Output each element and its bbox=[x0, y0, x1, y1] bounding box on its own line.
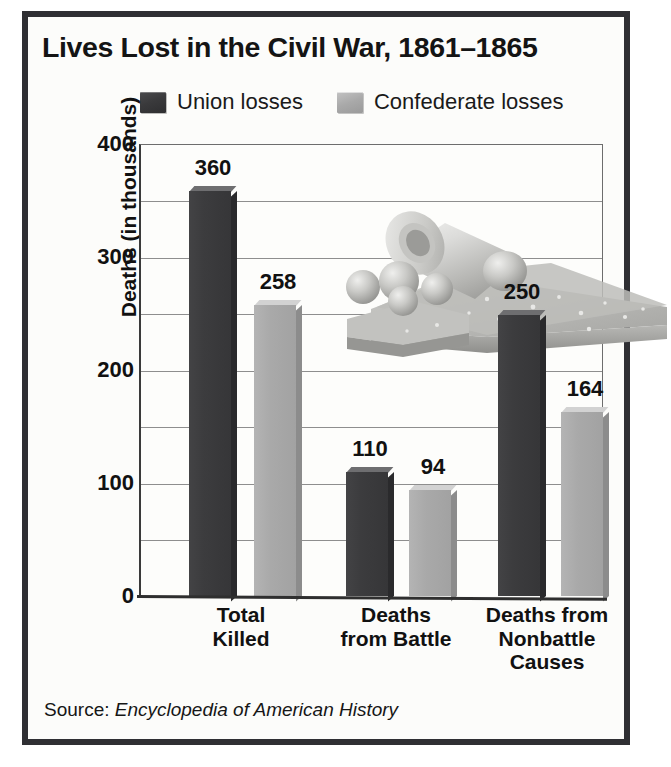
bar-side-face bbox=[296, 305, 302, 601]
y-tick-300: 300 bbox=[97, 244, 134, 270]
cannon-bore bbox=[401, 225, 434, 260]
y-tick-0: 0 bbox=[122, 583, 134, 609]
chart-canvas: Lives Lost in the Civil War, 1861–1865 U… bbox=[28, 17, 624, 739]
category-line: Killed bbox=[161, 627, 321, 651]
bar-side-face bbox=[231, 191, 237, 601]
cannonball-4 bbox=[421, 273, 453, 305]
category-line: Deaths bbox=[311, 603, 481, 627]
legend-item-confederate: Confederate losses bbox=[337, 89, 564, 115]
x-axis-category-labels: Total Killed Deaths from Battle Deaths f… bbox=[139, 603, 609, 713]
cannonball-2 bbox=[379, 261, 419, 301]
cannon-carriage-step-side bbox=[347, 333, 469, 357]
bar-confederate-deaths-from-battle: 94 bbox=[409, 485, 457, 596]
source-note: Source: Encyclopedia of American History bbox=[44, 699, 398, 721]
bar-front-face bbox=[189, 191, 231, 596]
cannonball-3 bbox=[388, 286, 418, 316]
bar-value-label: 164 bbox=[547, 376, 623, 402]
cannon-carriage-step bbox=[347, 301, 469, 345]
y-tick-400: 400 bbox=[97, 131, 134, 157]
category-label-deaths-from-battle: Deaths from Battle bbox=[311, 603, 481, 650]
bar-value-label: 250 bbox=[484, 279, 560, 305]
bar-union-total-killed: 360 bbox=[189, 186, 237, 596]
source-title: Encyclopedia of American History bbox=[115, 699, 398, 720]
bar-side-face bbox=[603, 412, 609, 601]
bar-value-label: 94 bbox=[395, 454, 471, 480]
y-tick-200: 200 bbox=[97, 357, 134, 383]
legend-label-union: Union losses bbox=[177, 89, 303, 115]
bar-confederate-total-killed: 258 bbox=[254, 300, 302, 596]
bar-confederate-deaths-nonbattle: 164 bbox=[561, 407, 609, 596]
category-label-total-killed: Total Killed bbox=[161, 603, 321, 650]
cannon-muzzle bbox=[374, 200, 456, 286]
cannonball-1 bbox=[346, 270, 380, 304]
legend-label-confederate: Confederate losses bbox=[374, 89, 564, 115]
source-prefix: Source: bbox=[44, 699, 115, 720]
bar-value-label: 258 bbox=[240, 269, 316, 295]
plot-area: 360 258 110 94 bbox=[139, 144, 603, 596]
bar-front-face bbox=[409, 490, 451, 596]
bar-front-face bbox=[346, 472, 388, 596]
chart-legend: Union losses Confederate losses bbox=[140, 89, 564, 115]
cannon-bore-rim bbox=[391, 216, 442, 270]
category-line: Nonbattle bbox=[467, 627, 627, 651]
bar-front-face bbox=[498, 315, 540, 596]
y-tick-100: 100 bbox=[97, 470, 134, 496]
bar-side-face bbox=[388, 472, 394, 601]
bar-union-deaths-nonbattle: 250 bbox=[498, 310, 546, 596]
union-swatch-icon bbox=[140, 92, 166, 113]
category-label-deaths-nonbattle: Deaths from Nonbattle Causes bbox=[467, 603, 627, 674]
category-line: from Battle bbox=[311, 627, 481, 651]
bar-side-face bbox=[540, 315, 546, 601]
bar-union-deaths-from-battle: 110 bbox=[346, 467, 394, 596]
bar-front-face bbox=[254, 305, 296, 596]
bar-value-label: 360 bbox=[175, 155, 251, 181]
legend-item-union: Union losses bbox=[140, 89, 303, 115]
chart-figure-frame: Lives Lost in the Civil War, 1861–1865 U… bbox=[22, 11, 630, 745]
category-line: Deaths from bbox=[467, 603, 627, 627]
category-line: Causes bbox=[467, 650, 627, 674]
bar-front-face bbox=[561, 412, 603, 596]
confederate-swatch-icon bbox=[337, 92, 363, 113]
category-line: Total bbox=[161, 603, 321, 627]
y-axis-tick-labels: 400 300 200 100 0 bbox=[76, 144, 134, 596]
bar-side-face bbox=[451, 490, 457, 601]
